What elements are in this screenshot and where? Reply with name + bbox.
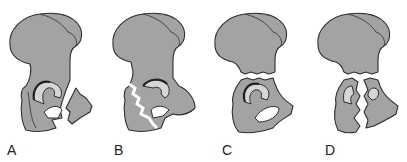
panel-c-pelvis (215, 13, 293, 132)
panel-b-pelvis (113, 13, 195, 131)
panel-label-b: B (114, 143, 123, 157)
figure: A B C D (0, 0, 407, 162)
panel-label-d: D (325, 143, 335, 157)
panel-a-pelvis (10, 13, 92, 131)
panel-label-c: C (222, 143, 232, 157)
panel-d-pelvis (318, 13, 398, 133)
pelvis-illustrations (0, 0, 407, 162)
panel-label-a: A (7, 143, 16, 157)
